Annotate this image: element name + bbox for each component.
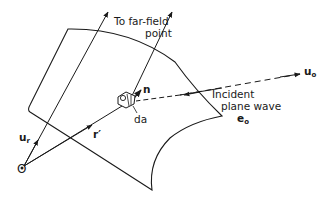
incident-direction-label: uo <box>304 66 316 81</box>
incident-label-line1: Incident <box>212 89 254 100</box>
polarization-label: eo <box>237 113 249 128</box>
incident-direction-arrow <box>280 74 300 77</box>
far-field-label-line1: To far-field <box>114 16 169 27</box>
area-element-label: da <box>134 114 147 125</box>
incident-wave-dashed-inner <box>136 95 180 101</box>
far-field-label-line2: point <box>145 28 172 39</box>
area-element-patch <box>118 92 135 108</box>
area-element-leader <box>133 106 137 113</box>
incident-label-line2: plane wave <box>221 101 281 112</box>
normal-label: n <box>143 84 150 95</box>
origin-label: O <box>17 164 26 175</box>
radial-unit-vector-label: ur <box>19 132 30 147</box>
position-vector-label: r′ <box>93 129 101 140</box>
scattering-surface <box>29 29 223 190</box>
